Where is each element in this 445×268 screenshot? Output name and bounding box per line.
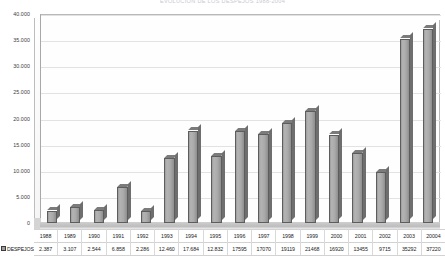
- table-cell-year: 1988: [34, 229, 58, 242]
- table-cell-year: 1999: [301, 229, 325, 242]
- table-cell-value: 21468: [301, 242, 325, 255]
- bar-front-face: [211, 156, 221, 223]
- bar: [400, 39, 410, 223]
- bar-side-face: [222, 150, 225, 220]
- bar-front-face: [141, 211, 151, 223]
- bar-side-face: [363, 146, 366, 219]
- chart-title: EVOLUCION DE LOS DESPEJOS 1988-2004: [0, 0, 445, 4]
- bar-front-face: [282, 123, 292, 223]
- bar: [117, 187, 127, 223]
- bar-side-face: [316, 104, 319, 219]
- y-axis-labels: 05.00010.00015.00020.00025.00030.00035.0…: [0, 14, 32, 223]
- table-cell-value: 13455: [349, 242, 373, 255]
- bar-side-face: [269, 127, 272, 219]
- bar: [305, 111, 315, 223]
- table-cell-year: 1995: [204, 229, 228, 242]
- table-cell-value: 2.387: [34, 242, 58, 255]
- bar-side-face: [57, 204, 60, 220]
- bar-front-face: [258, 134, 268, 223]
- bar-side-face: [198, 124, 201, 220]
- table-cell-value: 12.460: [155, 242, 179, 255]
- bar-front-face: [352, 153, 362, 223]
- bar: [282, 123, 292, 223]
- bar: [258, 134, 268, 223]
- table-cell-year: 1994: [179, 229, 203, 242]
- y-axis-tick-label: 30.000: [13, 63, 30, 69]
- bar-front-face: [47, 211, 57, 223]
- bar: [141, 211, 151, 223]
- bar: [70, 207, 80, 223]
- bar-front-face: [164, 158, 174, 223]
- bar-slot: [111, 14, 135, 223]
- plot-wrapper: [34, 14, 440, 229]
- table-cell-value: 2.544: [82, 242, 106, 255]
- bar: [188, 131, 198, 223]
- y-axis-tick-label: 10.000: [13, 168, 30, 174]
- bar-front-face: [235, 131, 245, 223]
- bar-slot: [40, 14, 64, 223]
- bar-front-face: [329, 135, 339, 223]
- bar-side-face: [175, 152, 178, 220]
- table-cell-year: 1991: [107, 229, 131, 242]
- bar-side-face: [410, 32, 413, 220]
- bar-slot: [393, 14, 417, 223]
- bar-slot: [158, 14, 182, 223]
- table-cell-value: 12.832: [204, 242, 228, 255]
- bar-slot: [416, 14, 440, 223]
- table-row-years: 1988198919901991199219931994199519961997…: [0, 229, 445, 242]
- table-row-values: DESPEJOS 2.3873.1072.5446.8582.28612.460…: [0, 242, 445, 255]
- bar-front-face: [70, 207, 80, 223]
- table-cell-value: 3.107: [58, 242, 82, 255]
- bar-slot: [64, 14, 88, 223]
- bar-slot: [322, 14, 346, 223]
- bar: [235, 131, 245, 223]
- bar-front-face: [376, 172, 386, 223]
- bar-slot: [346, 14, 370, 223]
- bar-side-face: [104, 203, 107, 219]
- bar: [94, 210, 104, 223]
- table-value-cells: 2.3873.1072.5446.8582.28612.46017.68412.…: [34, 242, 445, 255]
- y-axis-tick-label: 0: [27, 220, 30, 226]
- table-cell-value: 2.286: [131, 242, 155, 255]
- bar-slot: [252, 14, 276, 223]
- chart-container: EVOLUCION DE LOS DESPEJOS 1988-2004 05.0…: [0, 0, 445, 268]
- bar: [352, 153, 362, 223]
- table-cell-year: 1998: [276, 229, 300, 242]
- table-cell-year: 1996: [228, 229, 252, 242]
- table-cell-year: 2002: [373, 229, 397, 242]
- table-cell-year: 1990: [82, 229, 106, 242]
- bar-slot: [369, 14, 393, 223]
- bar-side-face: [151, 205, 154, 220]
- table-cell-year: 1997: [252, 229, 276, 242]
- bar-slot: [134, 14, 158, 223]
- bar-slot: [87, 14, 111, 223]
- table-cell-value: 37220: [422, 242, 445, 255]
- y-axis-tick-label: 25.000: [13, 89, 30, 95]
- bar-front-face: [94, 210, 104, 223]
- bar-slot: [275, 14, 299, 223]
- bar-side-face: [339, 128, 342, 220]
- y-axis-tick-label: 20.000: [13, 116, 30, 122]
- bar: [164, 158, 174, 223]
- legend-swatch-icon: [1, 246, 6, 251]
- bar: [376, 172, 386, 223]
- bar-side-face: [386, 166, 389, 220]
- table-cell-year: 2000: [325, 229, 349, 242]
- bar-front-face: [117, 187, 127, 223]
- bar-slot: [181, 14, 205, 223]
- bar-series-despejos: [40, 14, 440, 223]
- table-cell-value: 17070: [252, 242, 276, 255]
- bar-side-face: [128, 181, 131, 220]
- bar-front-face: [188, 131, 198, 223]
- table-cell-value: 16920: [325, 242, 349, 255]
- data-table: 1988198919901991199219931994199519961997…: [0, 229, 445, 268]
- table-cell-year: 2001: [349, 229, 373, 242]
- table-cell-year: 2003: [398, 229, 422, 242]
- table-cell-value: 35292: [398, 242, 422, 255]
- table-cell-value: 17.684: [179, 242, 203, 255]
- table-cell-value: 19119: [276, 242, 300, 255]
- table-row-years-header: [0, 229, 34, 242]
- legend-entry-despejos: DESPEJOS: [0, 242, 34, 255]
- table-cell-year: 1993: [155, 229, 179, 242]
- bar: [211, 156, 221, 223]
